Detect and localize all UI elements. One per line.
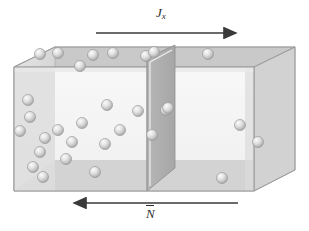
particle: [38, 172, 49, 183]
particle: [75, 61, 86, 72]
particle: [133, 106, 144, 117]
partition-face: [147, 45, 175, 191]
particle: [25, 112, 36, 123]
number-density-label-symbol: N: [146, 206, 155, 222]
particle: [217, 173, 228, 184]
flux-label: Jx: [156, 5, 166, 21]
particle: [40, 133, 51, 144]
particle: [253, 137, 264, 148]
particle: [77, 118, 88, 129]
particle: [15, 126, 26, 137]
flux-label-subscript: x: [162, 11, 166, 21]
diffusion-box-figure: Jx N: [0, 0, 309, 231]
particle: [53, 125, 64, 136]
particle: [235, 120, 246, 131]
particle: [90, 167, 101, 178]
box-right-face: [254, 47, 295, 191]
particle: [203, 49, 214, 60]
particle: [53, 48, 64, 59]
box-inner-top-band: [14, 67, 254, 72]
particle: [61, 154, 72, 165]
particle: [100, 139, 111, 150]
particle: [102, 100, 113, 111]
diffusion-diagram-svg: [0, 0, 309, 231]
particle: [88, 50, 99, 61]
particle: [28, 162, 39, 173]
particle: [147, 130, 158, 141]
particle: [67, 137, 78, 148]
particle: [149, 47, 160, 58]
partition-plane: [147, 45, 175, 191]
particle: [115, 125, 126, 136]
box-inner-right-wall: [245, 67, 254, 191]
particle: [23, 95, 34, 106]
particle: [35, 49, 46, 60]
number-density-label: N: [146, 206, 155, 222]
particle: [108, 48, 119, 59]
particle: [35, 147, 46, 158]
particle: [163, 103, 174, 114]
